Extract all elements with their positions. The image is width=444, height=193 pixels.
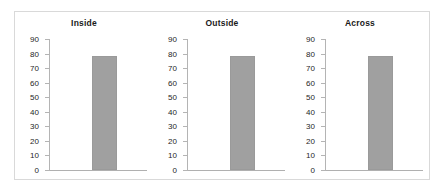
y-tick-label: 40 [306, 107, 315, 116]
y-tick-mark: 50 [183, 97, 188, 98]
y-tick-label: 50 [306, 93, 315, 102]
y-tick-label: 70 [30, 64, 39, 73]
y-tick-label: 30 [168, 122, 177, 131]
y-tick-label: 10 [168, 151, 177, 160]
y-tick-label: 70 [306, 64, 315, 73]
panel-title-inside: Inside [15, 18, 153, 28]
y-tick-mark: 40 [321, 112, 326, 113]
y-tick-mark: 20 [45, 141, 50, 142]
y-tick-label: 10 [30, 151, 39, 160]
panel-title-outside: Outside [153, 18, 291, 28]
y-tick-mark: 10 [45, 155, 50, 156]
plot-area-outside: 9080706050403020100 [187, 40, 285, 171]
x-axis-baseline [187, 170, 285, 171]
y-tick-mark: 90 [321, 39, 326, 40]
y-tick-mark: 90 [183, 39, 188, 40]
y-tick-mark: 60 [45, 83, 50, 84]
y-tick-mark: 70 [183, 68, 188, 69]
y-tick-label: 40 [30, 107, 39, 116]
y-tick-mark: 60 [183, 83, 188, 84]
y-tick-label: 60 [168, 78, 177, 87]
y-tick-mark: 10 [183, 155, 188, 156]
y-tick-mark: 50 [321, 97, 326, 98]
bar-inside [92, 56, 117, 170]
panel-row: Inside 9080706050403020100 Outside 90807… [15, 12, 429, 179]
y-tick-mark: 80 [45, 54, 50, 55]
x-axis-baseline [325, 170, 423, 171]
y-tick-mark: 50 [45, 97, 50, 98]
chart-panel-outside: Outside 9080706050403020100 [153, 12, 291, 179]
y-tick-mark: 0 [183, 170, 188, 171]
y-tick-mark: 0 [45, 170, 50, 171]
y-tick-mark: 10 [321, 155, 326, 156]
y-tick-label: 0 [35, 166, 39, 175]
y-tick-mark: 30 [45, 126, 50, 127]
y-axis-line [49, 40, 50, 171]
y-tick-label: 20 [30, 136, 39, 145]
y-tick-label: 80 [30, 49, 39, 58]
y-tick-mark: 80 [183, 54, 188, 55]
chart-panel-inside: Inside 9080706050403020100 [15, 12, 153, 179]
y-tick-label: 80 [168, 49, 177, 58]
y-tick-mark: 40 [183, 112, 188, 113]
y-tick-label: 20 [306, 136, 315, 145]
y-tick-mark: 70 [45, 68, 50, 69]
y-axis-line [187, 40, 188, 171]
y-tick-mark: 20 [321, 141, 326, 142]
y-tick-label: 90 [168, 35, 177, 44]
y-tick-mark: 20 [183, 141, 188, 142]
chart-panel-across: Across 9080706050403020100 [291, 12, 429, 179]
panel-title-across: Across [291, 18, 429, 28]
y-tick-mark: 90 [45, 39, 50, 40]
y-tick-label: 90 [306, 35, 315, 44]
y-tick-label: 30 [306, 122, 315, 131]
plot-area-across: 9080706050403020100 [325, 40, 423, 171]
y-tick-label: 0 [173, 166, 177, 175]
y-tick-mark: 30 [321, 126, 326, 127]
y-tick-mark: 70 [321, 68, 326, 69]
y-tick-mark: 80 [321, 54, 326, 55]
y-tick-label: 70 [168, 64, 177, 73]
bar-outside [230, 56, 255, 170]
y-tick-label: 60 [30, 78, 39, 87]
y-axis-line [325, 40, 326, 171]
y-tick-mark: 30 [183, 126, 188, 127]
y-tick-label: 80 [306, 49, 315, 58]
y-tick-mark: 40 [45, 112, 50, 113]
y-tick-label: 90 [30, 35, 39, 44]
bar-across [368, 56, 393, 170]
y-tick-mark: 60 [321, 83, 326, 84]
y-tick-mark: 0 [321, 170, 326, 171]
y-tick-label: 50 [30, 93, 39, 102]
y-tick-label: 10 [306, 151, 315, 160]
x-axis-baseline [49, 170, 147, 171]
y-tick-label: 30 [30, 122, 39, 131]
y-tick-label: 40 [168, 107, 177, 116]
y-tick-label: 50 [168, 93, 177, 102]
y-tick-label: 0 [311, 166, 315, 175]
plot-area-inside: 9080706050403020100 [49, 40, 147, 171]
chart-figure: Inside 9080706050403020100 Outside 90807… [14, 11, 430, 180]
y-tick-label: 20 [168, 136, 177, 145]
y-tick-label: 60 [306, 78, 315, 87]
